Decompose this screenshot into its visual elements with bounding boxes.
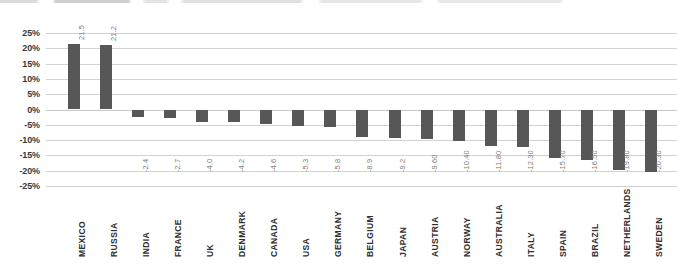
bar-group: -8.9BELGIUM	[346, 0, 378, 264]
bar	[389, 110, 401, 138]
bar	[132, 110, 144, 117]
bar	[100, 45, 112, 110]
bar-value-label: -4.0	[206, 159, 214, 172]
x-axis-category-label: NETHERLANDS	[623, 188, 632, 257]
bar-group: -12.30ITALY	[507, 0, 539, 264]
y-axis-tick-label: -15%	[19, 151, 40, 160]
x-axis-category-label: JAPAN	[399, 227, 408, 257]
y-axis-tick-label: -20%	[19, 166, 40, 175]
y-axis-tick-label: 20%	[22, 44, 40, 53]
y-axis-tick-label: 10%	[22, 74, 40, 83]
x-axis-category-label: BRAZIL	[591, 223, 600, 257]
bar-group: -19.80NETHERLANDS	[603, 0, 635, 264]
plot-area: 21.5MEXICO21.2RUSSIA-2.4INDIA-2.7FRANCE-…	[46, 0, 677, 264]
bar-value-label: -19.80	[623, 150, 631, 172]
bar-group: -9.2JAPAN	[379, 0, 411, 264]
bar-value-label: -8.9	[366, 159, 374, 172]
bar-value-label: -16.50	[591, 150, 599, 172]
bar-group: -4.2DENMARK	[218, 0, 250, 264]
bar-value-label: -5.3	[302, 159, 310, 172]
bar	[196, 110, 208, 122]
y-axis-tick-label: 25%	[22, 29, 40, 38]
bar-group: -2.7FRANCE	[154, 0, 186, 264]
y-axis-tick-label: 15%	[22, 59, 40, 68]
bar	[292, 110, 304, 126]
bar-group: -5.8GERMANY	[314, 0, 346, 264]
x-axis-category-label: CANADA	[270, 218, 279, 257]
bar-group: -9.60AUSTRIA	[411, 0, 443, 264]
bar-chart: 25%20%15%10%5%0%-5%-10%-15%-20%-25% 21.5…	[0, 0, 677, 264]
bar-value-label: -9.2	[399, 159, 407, 172]
bar	[517, 110, 529, 148]
bar	[485, 110, 497, 146]
x-axis-category-label: SWEDEN	[655, 217, 664, 257]
bar-group: 21.2RUSSIA	[90, 0, 122, 264]
bar-value-label: -11.80	[495, 151, 503, 172]
x-axis-category-label: RUSSIA	[110, 222, 119, 257]
bar-group: -5.3USA	[282, 0, 314, 264]
bar-group: -15.70SPAIN	[539, 0, 571, 264]
bar-group: -2.4INDIA	[122, 0, 154, 264]
bar	[228, 110, 240, 123]
bar-group: 21.5MEXICO	[58, 0, 90, 264]
x-axis-category-label: AUSTRIA	[431, 216, 440, 257]
y-axis-tick-label: -10%	[19, 136, 40, 145]
bar-value-label: -20.30	[655, 150, 663, 172]
bar-value-label: -10.40	[463, 150, 471, 172]
bar	[164, 110, 176, 118]
bar-value-label: -15.70	[559, 150, 567, 172]
x-axis-category-label: INDIA	[142, 232, 151, 257]
bar	[324, 110, 336, 128]
x-axis-category-label: AUSTRALIA	[495, 204, 504, 257]
bar-value-label: -2.7	[174, 159, 182, 172]
bar-value-label: -2.4	[142, 159, 150, 172]
x-axis-category-label: BELGIUM	[366, 215, 375, 257]
bar-group: -20.30SWEDEN	[635, 0, 667, 264]
bar-group: -4.0UK	[186, 0, 218, 264]
x-axis-category-label: NORWAY	[463, 217, 472, 257]
y-axis: 25%20%15%10%5%0%-5%-10%-15%-20%-25%	[0, 0, 46, 264]
bar	[421, 110, 433, 139]
bar-group: -10.40NORWAY	[443, 0, 475, 264]
bar-value-label: -5.8	[334, 159, 342, 172]
bar	[453, 110, 465, 142]
bar-value-label: -4.6	[270, 159, 278, 172]
bar	[68, 44, 80, 110]
x-axis-category-label: USA	[302, 238, 311, 257]
x-axis-category-label: ITALY	[527, 232, 536, 257]
bar-value-label: -12.30	[527, 150, 535, 172]
x-axis-category-label: SPAIN	[559, 230, 568, 257]
bar-value-label: 21.5	[78, 25, 86, 40]
bar-group: -16.50BRAZIL	[571, 0, 603, 264]
x-axis-category-label: FRANCE	[174, 219, 183, 257]
y-axis-tick-label: 5%	[27, 90, 40, 99]
bar-value-label: -4.2	[238, 159, 246, 172]
y-axis-tick-label: 0%	[27, 105, 40, 114]
x-axis-category-label: DENMARK	[238, 211, 247, 257]
bar-value-label: 21.2	[110, 26, 118, 41]
x-axis-category-label: GERMANY	[334, 211, 343, 257]
bar-group: -11.80AUSTRALIA	[475, 0, 507, 264]
x-axis-category-label: UK	[206, 244, 215, 257]
bar-value-label: -9.60	[431, 154, 439, 172]
bar	[260, 110, 272, 124]
y-axis-tick-label: -5%	[24, 120, 40, 129]
y-axis-tick-label: -25%	[19, 182, 40, 191]
bar-group: -4.6CANADA	[250, 0, 282, 264]
bar	[356, 110, 368, 137]
x-axis-category-label: MEXICO	[78, 221, 87, 257]
